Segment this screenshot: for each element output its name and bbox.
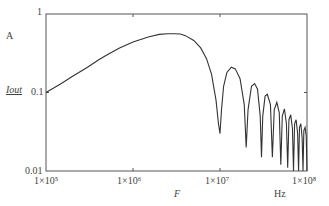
plot-frame <box>46 14 307 171</box>
x-axis-label: F <box>174 188 180 199</box>
x-tick-1e8: 1×10⁸ <box>292 175 316 186</box>
iout-curve <box>46 34 307 171</box>
y-axis-label: Iout <box>6 84 22 95</box>
y-unit-label: A <box>6 30 13 41</box>
x-tick-1e7: 1×10⁷ <box>205 175 229 186</box>
x-unit-label: Hz <box>274 188 286 199</box>
x-tick-1e5: 1×10⁵ <box>34 175 58 186</box>
y-tick-0.1: 0.1 <box>31 86 44 97</box>
y-tick-1: 1 <box>37 6 42 17</box>
x-tick-1e6: 1×10⁶ <box>117 175 141 186</box>
